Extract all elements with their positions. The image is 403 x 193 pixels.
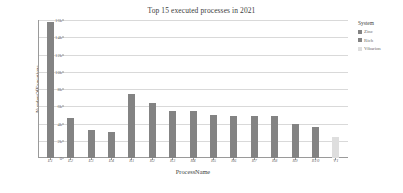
x-axis-tick-label: R3: [162, 158, 182, 168]
bar-slot: [101, 20, 121, 158]
legend-swatch-icon: [358, 38, 362, 42]
bar-E4[interactable]: [108, 132, 115, 158]
y-axis-tick-label: 16k: [48, 18, 62, 23]
x-axis-tick-label: R1: [122, 158, 142, 168]
y-axis-tick-label: 10k: [48, 69, 62, 74]
x-axis-ticks: E1E2E3E4R1R2R3R4R5R6R7R8R9R10V1: [38, 158, 348, 168]
x-axis-tick-label: E1: [40, 158, 60, 168]
y-axis-tick-mark: [62, 106, 64, 107]
x-axis-tick-label: V1: [326, 158, 346, 168]
legend-item-label: Zinc: [364, 29, 373, 34]
bar-slot: [81, 20, 101, 158]
legend-item-vibarion[interactable]: Vibarion: [358, 46, 403, 52]
x-axis-title: ProcessName: [38, 168, 348, 175]
bar-R1[interactable]: [128, 94, 135, 158]
y-axis-tick-label: 8k: [48, 87, 62, 92]
y-axis-tick-label: 4k: [48, 121, 62, 126]
y-axis-tick-label: 14k: [48, 35, 62, 40]
bar-R4[interactable]: [190, 111, 197, 158]
legend-title: System: [358, 20, 403, 26]
bar-slot: [142, 20, 162, 158]
chart-title: Top 15 executed processes in 2021: [0, 6, 403, 15]
bar-slot: [183, 20, 203, 158]
bar-series: [38, 20, 348, 158]
legend-item-rich[interactable]: Rich: [358, 37, 403, 43]
bar-E3[interactable]: [88, 130, 95, 158]
y-axis-tick-mark: [62, 140, 64, 141]
bar-slot: [203, 20, 223, 158]
x-axis-tick-label: R4: [183, 158, 203, 168]
y-axis-tick-mark: [62, 54, 64, 55]
y-axis-tick-mark: [62, 37, 64, 38]
legend-swatch-icon: [358, 30, 362, 34]
bar-R3[interactable]: [169, 111, 176, 158]
y-axis-tick-mark: [62, 20, 64, 21]
x-axis-tick-label: E4: [101, 158, 121, 168]
x-axis-tick-label: E3: [81, 158, 101, 168]
x-axis-tick-label: R2: [142, 158, 162, 168]
bar-slot: [224, 20, 244, 158]
bar-slot: [244, 20, 264, 158]
legend: System ZincRichVibarion: [358, 20, 403, 54]
x-axis-tick-label: R8: [264, 158, 284, 168]
legend-swatch-icon: [358, 47, 362, 51]
x-axis-tick-label: E2: [60, 158, 80, 168]
bar-R5[interactable]: [210, 115, 217, 158]
legend-item-zinc[interactable]: Zinc: [358, 29, 403, 35]
legend-item-label: Vibarion: [364, 46, 381, 51]
y-axis-tick-label: 6k: [48, 104, 62, 109]
x-axis-tick-label: R10: [305, 158, 325, 168]
legend-item-label: Rich: [364, 38, 373, 43]
bar-R6[interactable]: [230, 116, 237, 158]
chart-root: Top 15 executed processes in 2021 Number…: [0, 0, 403, 193]
bar-R2[interactable]: [149, 103, 156, 158]
legend-entries: ZincRichVibarion: [358, 29, 403, 52]
plot-area: [38, 20, 348, 158]
y-axis-tick-mark: [62, 89, 64, 90]
x-axis-tick-label: R5: [203, 158, 223, 168]
x-axis-tick-label: R7: [244, 158, 264, 168]
x-axis-tick-label: R9: [285, 158, 305, 168]
bar-slot: [326, 20, 346, 158]
bar-R9[interactable]: [292, 124, 299, 158]
y-axis-tick-label: 12k: [48, 52, 62, 57]
bar-slot: [285, 20, 305, 158]
bar-slot: [305, 20, 325, 158]
bar-R7[interactable]: [251, 116, 258, 158]
bar-slot: [264, 20, 284, 158]
bar-E2[interactable]: [67, 118, 74, 158]
y-axis-tick-mark: [62, 71, 64, 72]
bar-R8[interactable]: [271, 116, 278, 158]
bar-slot: [162, 20, 182, 158]
bar-R10[interactable]: [312, 127, 319, 158]
y-axis-tick-label: 2k: [48, 138, 62, 143]
bar-slot: [122, 20, 142, 158]
x-axis-tick-label: R6: [224, 158, 244, 168]
bar-V1[interactable]: [332, 137, 339, 158]
y-axis-tick-mark: [62, 123, 64, 124]
